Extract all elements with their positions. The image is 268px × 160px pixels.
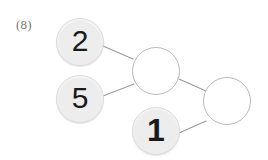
worksheet-page: (8) 2 5 1: [0, 0, 268, 160]
node-value-1: 1: [147, 114, 165, 146]
answer-node-sum-1[interactable]: [132, 47, 180, 95]
number-node-2[interactable]: 2: [56, 18, 104, 66]
connector-5-to-sum1: [103, 84, 134, 96]
connector-2-to-sum1: [103, 46, 133, 59]
number-node-5[interactable]: 5: [56, 75, 104, 123]
number-node-1[interactable]: 1: [132, 107, 180, 155]
connector-1-to-sum2: [179, 121, 206, 133]
answer-node-sum-2[interactable]: [203, 77, 251, 125]
node-value-2: 2: [72, 26, 89, 56]
connector-sum1-to-sum2: [179, 79, 206, 91]
node-value-5: 5: [72, 83, 89, 113]
